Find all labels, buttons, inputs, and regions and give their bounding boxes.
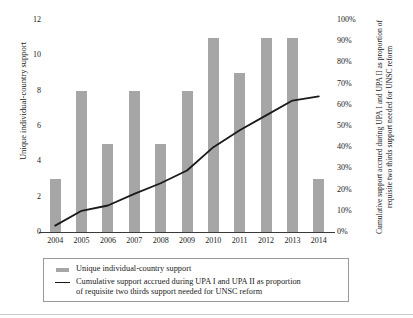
legend-label-bar: Unique individual-country support xyxy=(76,264,191,274)
line-series xyxy=(42,20,332,232)
left-axis-title: Unique individual-country support xyxy=(18,16,28,186)
right-axis-tick-mark xyxy=(332,232,335,233)
legend-label-line: Cumulative support accrued during UPA I … xyxy=(76,277,301,297)
right-axis-tick-label: 0% xyxy=(337,228,348,236)
right-axis-title-text: Cumulative support accrued during UPA I … xyxy=(375,15,394,239)
plot-area xyxy=(42,20,332,232)
right-axis-title: Cumulative support accrued during UPA I … xyxy=(358,14,412,240)
line-swatch-icon xyxy=(53,278,71,287)
right-axis-tick-label: 40% xyxy=(337,143,352,151)
right-axis-tick-label: 20% xyxy=(337,186,352,194)
page-rule xyxy=(0,314,413,315)
left-axis-tick-label: 6 xyxy=(37,122,41,130)
left-axis-tick-label: 12 xyxy=(33,16,41,24)
right-axis-tick-label: 100% xyxy=(337,16,356,24)
chart-figure: Unique individual-country support Cumula… xyxy=(0,0,413,318)
x-axis-line xyxy=(42,232,332,233)
chart-legend: Unique individual-country support Cumula… xyxy=(43,258,349,302)
x-axis-tick-label: 2014 xyxy=(304,236,334,245)
right-axis-tick-label: 90% xyxy=(337,37,352,45)
bar-swatch-icon xyxy=(53,265,71,274)
legend-item-bar: Unique individual-country support xyxy=(53,264,191,274)
left-axis-tick-label: 10 xyxy=(33,51,41,59)
right-axis-tick-label: 30% xyxy=(337,164,352,172)
line-path xyxy=(55,96,319,225)
legend-item-line: Cumulative support accrued during UPA I … xyxy=(53,277,301,297)
right-axis-tick-label: 50% xyxy=(337,122,352,130)
right-axis-tick-label: 60% xyxy=(337,101,352,109)
left-axis-tick-label: 4 xyxy=(37,157,41,165)
right-axis-tick-label: 10% xyxy=(337,207,352,215)
left-axis-tick-label: 2 xyxy=(37,193,41,201)
right-axis-tick-label: 80% xyxy=(337,58,352,66)
left-axis-tick-label: 8 xyxy=(37,87,41,95)
right-axis-tick-label: 70% xyxy=(337,80,352,88)
